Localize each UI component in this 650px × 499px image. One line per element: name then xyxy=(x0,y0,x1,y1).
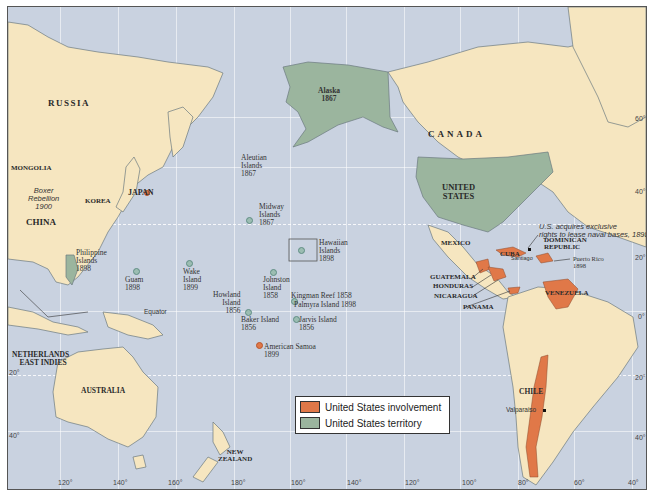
label-korea: KOREA xyxy=(85,198,111,205)
legend-item-involvement: United States involvement xyxy=(300,399,445,415)
lon-tick: 60° xyxy=(574,479,585,486)
santiago-city-marker xyxy=(528,248,531,251)
american-samoa-marker xyxy=(256,342,263,349)
lon-tick: 100° xyxy=(462,479,476,486)
label-chile: CHILE xyxy=(519,388,543,396)
map-legend: United States involvement United States … xyxy=(295,396,450,434)
lon-tick: 140° xyxy=(113,479,127,486)
label-mongolia: MONGOLIA xyxy=(11,165,51,172)
label-naval-bases: U.S. acquires exclusive rights to lease … xyxy=(539,223,647,239)
label-aleutian-islands: Aleutian Islands 1867 xyxy=(241,154,267,178)
label-wake-island: Wake Island 1899 xyxy=(183,268,201,292)
lat-tick: 20° xyxy=(635,254,646,261)
legend-item-territory: United States territory xyxy=(300,415,445,431)
involvement-swatch-icon xyxy=(300,401,320,413)
label-american-samoa: American Samoa 1899 xyxy=(264,343,316,359)
lon-tick: 140° xyxy=(347,479,361,486)
label-canada: CANADA xyxy=(428,130,485,139)
label-australia: AUSTRALIA xyxy=(81,387,125,395)
wake-island-marker xyxy=(186,260,193,267)
label-alaska: Alaska 1867 xyxy=(318,87,340,103)
lat-tick: 0° xyxy=(638,313,645,320)
alaska-shape xyxy=(283,62,398,147)
lon-tick: 80° xyxy=(518,479,529,486)
label-russia: RUSSIA xyxy=(48,99,90,108)
label-honduras: HONDURAS xyxy=(433,283,473,290)
lon-tick: 160° xyxy=(168,479,182,486)
lat-tick: 60° xyxy=(635,115,646,122)
label-panama: PANAMA xyxy=(463,304,494,311)
lat-tick: 40° xyxy=(635,434,646,441)
label-puerto-rico: Puerto Rico 1898 xyxy=(573,256,604,270)
label-valparaiso: Valparaiso xyxy=(506,407,536,414)
panama-shape xyxy=(508,287,520,294)
label-johnston-island: Johnston Island 1858 xyxy=(263,276,290,300)
label-netherlands-east-indies: NETHERLANDS EAST INDIES xyxy=(12,351,69,367)
label-united-states: UNITED STATES xyxy=(442,183,475,201)
label-boxer-rebellion: Boxer Rebellion 1900 xyxy=(28,187,59,211)
label-philippine-islands: Philippine Islands 1898 xyxy=(76,249,107,273)
label-new-zealand: NEW ZEALAND xyxy=(218,449,252,464)
label-guatemala: GUATEMALA xyxy=(430,274,476,281)
territory-swatch-icon xyxy=(300,417,320,429)
lat-tick: 20° xyxy=(635,374,646,381)
label-baker-island: Baker Island 1856 xyxy=(241,316,279,332)
label-mexico: MEXICO xyxy=(441,240,471,247)
label-venezuela: VENEZUELA xyxy=(545,290,589,297)
lon-tick: 120° xyxy=(405,479,419,486)
label-palmyra-island: Palmyra Island 1898 xyxy=(294,301,356,309)
label-howland-island: Howland Island 1856 xyxy=(213,291,241,315)
lat-tick: 40° xyxy=(9,432,20,439)
label-dominican-republic: DOMINICAN REPUBLIC xyxy=(544,237,587,252)
label-china: CHINA xyxy=(26,218,56,227)
valparaiso-city-marker xyxy=(543,409,546,412)
label-guam: Guam 1898 xyxy=(125,276,143,292)
hawaiian-islands-marker xyxy=(298,247,305,254)
guam-marker xyxy=(133,268,140,275)
lon-tick: 40° xyxy=(628,479,639,486)
label-santiago: Santiago xyxy=(511,256,533,262)
label-hawaiian-islands: Hawaiian Islands 1898 xyxy=(319,239,348,263)
dominican-republic-shape xyxy=(536,253,553,263)
label-kingman-reef: Kingman Reef 1858 xyxy=(291,292,352,300)
label-midway-islands: Midway Islands 1867 xyxy=(259,203,284,227)
label-jarvis-island: Jarvis Island 1856 xyxy=(299,316,337,332)
lon-tick: 180° xyxy=(231,479,245,486)
lat-tick: 20° xyxy=(9,369,20,376)
label-equator: Equator xyxy=(144,309,167,316)
label-japan: JAPAN xyxy=(128,189,154,197)
lat-tick: 40° xyxy=(635,188,646,195)
midway-islands-marker xyxy=(246,217,253,224)
lon-tick: 120° xyxy=(58,479,72,486)
lon-tick: 160° xyxy=(291,479,305,486)
pacific-imperialism-map: RUSSIA MONGOLIA CHINA KOREA JAPAN NETHER… xyxy=(0,0,650,499)
usa-shape xyxy=(416,152,553,232)
label-nicaragua: NICARAGUA xyxy=(434,293,478,300)
map-frame: RUSSIA MONGOLIA CHINA KOREA JAPAN NETHER… xyxy=(7,6,647,490)
